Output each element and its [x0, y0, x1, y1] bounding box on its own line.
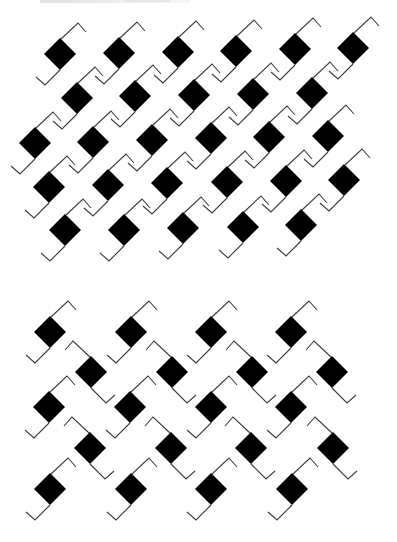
black-diamond: [151, 167, 183, 199]
tile-unit: [307, 417, 357, 479]
bottom-hook-stroke: [107, 348, 131, 363]
top-hook-stroke: [132, 458, 157, 474]
top-hook-stroke: [292, 301, 317, 317]
bottom-hook-stroke: [11, 159, 35, 174]
top-hook-stroke: [345, 149, 370, 165]
tile-unit: [26, 301, 76, 363]
top-hook-stroke: [145, 417, 170, 433]
black-diamond: [296, 77, 328, 109]
black-diamond: [34, 316, 66, 348]
top-hook-stroke: [66, 199, 91, 215]
top-hook-stroke: [254, 63, 279, 79]
tile-unit: [268, 458, 318, 520]
top-hook-stroke: [132, 301, 157, 317]
black-diamond: [115, 473, 147, 505]
top-hook-stroke: [61, 23, 86, 39]
black-diamond: [119, 80, 151, 112]
tile-unit: [187, 458, 237, 520]
tile-unit: [187, 301, 237, 363]
upper-pattern: [11, 17, 379, 261]
top-hook-stroke: [94, 111, 119, 127]
bottom-hook-stroke: [26, 348, 50, 363]
bottom-hook-stroke: [106, 423, 130, 438]
black-diamond: [235, 432, 267, 464]
bottom-hook-stroke: [187, 423, 211, 438]
tile-unit: [145, 417, 195, 479]
top-hook-stroke: [292, 376, 317, 392]
bottom-hook-stroke: [229, 110, 253, 125]
top-hook-stroke: [184, 197, 209, 213]
bottom-hook-stroke: [84, 201, 108, 216]
bottom-hook-stroke: [262, 197, 286, 212]
black-diamond: [337, 32, 369, 64]
top-hook-stroke: [50, 376, 75, 392]
black-diamond: [253, 121, 285, 153]
tile-unit: [26, 458, 76, 520]
black-diamond: [237, 78, 269, 110]
top-hook-stroke: [146, 341, 171, 357]
tile-unit: [100, 199, 150, 261]
tile-unit: [107, 301, 157, 363]
tile-unit: [106, 376, 156, 438]
bottom-hook-stroke: [91, 388, 115, 403]
tiling-figure: [0, 0, 397, 542]
black-diamond: [136, 124, 168, 156]
black-diamond: [115, 316, 147, 348]
bottom-hook-stroke: [26, 505, 50, 520]
black-diamond: [275, 391, 307, 423]
bottom-hook-stroke: [187, 154, 211, 169]
top-hook-stroke: [293, 458, 318, 474]
bottom-hook-stroke: [277, 241, 301, 256]
black-diamond: [316, 356, 348, 388]
tile-unit: [267, 376, 317, 438]
tile-unit: [25, 376, 75, 438]
top-hook-stroke: [307, 417, 332, 433]
tile-unit: [306, 341, 356, 403]
black-diamond: [49, 214, 81, 246]
black-diamond: [156, 356, 188, 388]
black-diamond: [162, 36, 194, 68]
black-diamond: [236, 356, 268, 388]
tile-unit: [36, 23, 86, 85]
tile-unit: [64, 417, 114, 479]
black-diamond: [312, 120, 344, 152]
bottom-hook-stroke: [268, 505, 292, 520]
black-diamond: [33, 171, 65, 203]
top-hook-stroke: [237, 20, 262, 36]
top-hook-stroke: [354, 17, 379, 33]
black-diamond: [211, 166, 243, 198]
bottom-hook-stroke: [143, 199, 167, 214]
black-diamond: [285, 209, 317, 241]
black-diamond: [328, 164, 360, 196]
bottom-hook-stroke: [41, 246, 65, 261]
tile-unit: [154, 21, 204, 83]
tile-unit: [146, 341, 196, 403]
top-hook-stroke: [64, 417, 89, 433]
tile-unit: [320, 149, 370, 211]
tile-unit: [69, 111, 119, 173]
tile-unit: [65, 341, 115, 403]
bottom-hook-stroke: [251, 464, 275, 479]
top-hook-stroke: [65, 341, 90, 357]
tile-unit: [107, 458, 157, 520]
top-hook-stroke: [212, 458, 237, 474]
bottom-hook-stroke: [107, 505, 131, 520]
bottom-hook-stroke: [187, 348, 211, 363]
top-hook-stroke: [287, 150, 312, 166]
black-diamond: [178, 79, 210, 111]
black-diamond: [195, 316, 227, 348]
top-hook-stroke: [51, 301, 76, 317]
top-hook-stroke: [212, 376, 237, 392]
black-diamond: [74, 432, 106, 464]
bottom-hook-stroke: [171, 464, 195, 479]
top-hook-stroke: [125, 199, 150, 215]
bottom-hook-stroke: [212, 67, 236, 82]
black-diamond: [103, 37, 135, 69]
black-diamond: [75, 356, 107, 388]
black-diamond: [33, 391, 65, 423]
bottom-hook-stroke: [172, 388, 196, 403]
tile-unit: [111, 65, 161, 127]
black-diamond: [167, 212, 199, 244]
top-hook-stroke: [212, 301, 237, 317]
black-diamond: [34, 473, 66, 505]
